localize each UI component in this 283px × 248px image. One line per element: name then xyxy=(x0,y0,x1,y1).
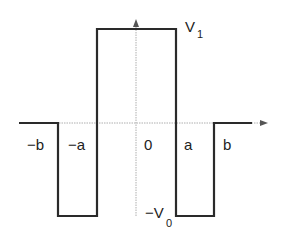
label-b: b xyxy=(223,136,231,153)
label-neg-v0-subscript: 0 xyxy=(166,217,172,229)
label-v1: V xyxy=(185,18,195,35)
potential-diagram: −b −a 0 a b V 1 −V 0 xyxy=(0,0,283,248)
label-v1-subscript: 1 xyxy=(197,28,203,40)
x-axis-arrow-icon xyxy=(260,120,268,126)
label-a: a xyxy=(184,136,193,153)
y-axis-arrow-icon xyxy=(133,19,139,27)
label-neg-b: −b xyxy=(27,136,44,153)
label-zero: 0 xyxy=(144,136,152,153)
label-neg-a: −a xyxy=(68,136,86,153)
potential-curve xyxy=(19,29,252,216)
label-neg-v0: −V xyxy=(145,204,164,221)
